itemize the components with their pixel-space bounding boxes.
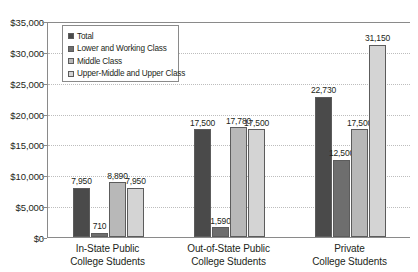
- y-axis-tick-label: $10,000: [0, 171, 44, 182]
- bar-value-label: 17,500: [244, 118, 269, 128]
- bar-slot: 17,500: [248, 22, 265, 237]
- y-axis-tick-label: $30,000: [0, 47, 44, 58]
- x-axis-label-line: In-State Public: [47, 243, 168, 256]
- y-axis-tick-label: $35,000: [0, 17, 44, 28]
- bar[interactable]: [91, 233, 108, 237]
- x-axis-label-line: College Students: [168, 256, 289, 269]
- bar-slot: 22,730: [315, 22, 332, 237]
- y-axis-tick-mark: [42, 22, 47, 23]
- y-axis-tick-mark: [42, 145, 47, 146]
- legend-swatch-icon: [68, 71, 74, 77]
- bar-value-label: 7,950: [71, 176, 92, 186]
- bar-group: 22,73012,50017,50031,150: [290, 22, 411, 237]
- legend-item[interactable]: Middle Class: [68, 55, 173, 68]
- bar-value-label: 1,590: [210, 216, 231, 226]
- bar[interactable]: [73, 188, 90, 237]
- chart-legend: TotalLower and Working ClassMiddle Class…: [62, 25, 179, 82]
- legend-item-label: Middle Class: [77, 57, 122, 66]
- bar[interactable]: [315, 97, 332, 237]
- y-axis-tick-label: $20,000: [0, 109, 44, 120]
- y-axis-tick-mark: [42, 238, 47, 239]
- bar-value-label: 7,950: [125, 176, 146, 186]
- y-axis-tick-mark: [42, 53, 47, 54]
- legend-item[interactable]: Lower and Working Class: [68, 43, 173, 56]
- y-axis-tick-mark: [42, 207, 47, 208]
- bar[interactable]: [351, 129, 368, 237]
- bar-slot: 17,780: [230, 22, 247, 237]
- y-axis-tick-label: $0: [0, 233, 44, 244]
- bar[interactable]: [369, 45, 386, 237]
- x-axis-group-label: Out-of-State PublicCollege Students: [168, 243, 289, 268]
- legend-item[interactable]: Total: [68, 30, 173, 43]
- x-axis-label-line: College Students: [289, 256, 410, 269]
- bar[interactable]: [333, 160, 350, 237]
- legend-item-label: Upper-Middle and Upper Class: [77, 69, 185, 78]
- bar-value-label: 31,150: [365, 33, 390, 43]
- y-axis-tick-label: $15,000: [0, 140, 44, 151]
- legend-item[interactable]: Upper-Middle and Upper Class: [68, 68, 173, 81]
- bar[interactable]: [212, 227, 229, 237]
- bar-slot: 17,500: [194, 22, 211, 237]
- y-axis-tick-mark: [42, 176, 47, 177]
- bar[interactable]: [127, 188, 144, 237]
- legend-swatch-icon: [68, 58, 74, 64]
- y-axis-tick-label: $5,000: [0, 202, 44, 213]
- y-axis-tick-mark: [42, 84, 47, 85]
- x-axis-label-line: College Students: [47, 256, 168, 269]
- y-axis-tick-mark: [42, 115, 47, 116]
- grouped-bar-chart: 7,9507108,8907,95017,5001,59017,78017,50…: [0, 0, 418, 272]
- bar-group: 17,5001,59017,78017,500: [169, 22, 290, 237]
- bar-slot: 12,500: [333, 22, 350, 237]
- x-axis-label-line: Private: [289, 243, 410, 256]
- x-axis-group-label: PrivateCollege Students: [289, 243, 410, 268]
- bar-value-label: 710: [93, 221, 107, 231]
- legend-swatch-icon: [68, 46, 74, 52]
- bar-slot: 31,150: [369, 22, 386, 237]
- x-axis-label-line: Out-of-State Public: [168, 243, 289, 256]
- bar[interactable]: [109, 182, 126, 237]
- legend-item-label: Total: [77, 32, 94, 41]
- bar-slot: 17,500: [351, 22, 368, 237]
- bar[interactable]: [230, 127, 247, 237]
- legend-swatch-icon: [68, 33, 74, 39]
- bar[interactable]: [248, 129, 265, 237]
- y-axis-tick-label: $25,000: [0, 78, 44, 89]
- legend-item-label: Lower and Working Class: [77, 44, 167, 53]
- x-axis-group-label: In-State PublicCollege Students: [47, 243, 168, 268]
- bar-slot: 1,590: [212, 22, 229, 237]
- bar[interactable]: [194, 129, 211, 237]
